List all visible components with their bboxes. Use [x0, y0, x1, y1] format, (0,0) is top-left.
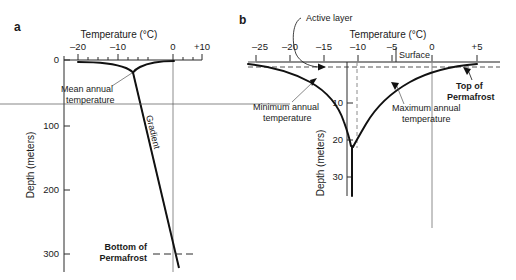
panel-a-xtick-plus10: +10	[194, 41, 210, 52]
panel-b-ytick-30: 30	[332, 171, 343, 182]
panel-b-active-layer-arrowhead	[318, 64, 326, 71]
panel-b-active-layer-label: Active layer	[306, 13, 353, 23]
panel-a: a Temperature (°C) –20 –10 0 +10	[14, 20, 210, 272]
panel-a-xtick-zero: 0	[170, 41, 175, 52]
panel-b-xtick-zero: 0	[429, 41, 434, 52]
panel-a-bottom-permafrost-label-line2: Permafrost	[99, 253, 147, 263]
panel-b-max-annual-label-line2: temperature	[402, 114, 451, 124]
panel-b-min-annual-label-line1: Minimum annual	[253, 102, 319, 112]
panel-b-label: b	[239, 13, 246, 27]
panel-b-x-axis-title: Temperature (°C)	[350, 29, 427, 40]
panel-a-ytick-100: 100	[43, 120, 59, 131]
panel-a-x-ticks	[78, 54, 202, 60]
panel-a-gradient-line	[133, 73, 179, 269]
panel-b-top-permafrost-label-line1: Top of	[456, 81, 484, 91]
panel-a-y-axis-title: Depth (meters)	[25, 132, 36, 199]
panel-a-xtick-minus20: –20	[70, 41, 86, 52]
panel-a-xtick-minus10: –10	[110, 41, 126, 52]
panel-b-xtick-minus15: –15	[316, 41, 332, 52]
panel-a-maximum-annual-curve	[133, 61, 174, 73]
panel-b-xtick-minus10: –10	[350, 41, 366, 52]
panel-a-ytick-300: 300	[43, 248, 59, 259]
panel-a-minimum-annual-curve	[78, 62, 133, 73]
panel-b-max-annual-label-line1: Maximum annual	[392, 103, 461, 113]
panel-a-mean-annual-label-line2: temperature	[66, 95, 115, 105]
panel-b-xtick-minus25: –25	[252, 41, 268, 52]
permafrost-temperature-figure: a Temperature (°C) –20 –10 0 +10	[0, 0, 516, 280]
panel-a-mean-annual-leader	[112, 73, 132, 86]
panel-a-ytick-200: 200	[43, 184, 59, 195]
panel-b-min-annual-label-line2: temperature	[263, 113, 312, 123]
panel-a-ytick-0: 0	[54, 54, 59, 65]
panel-b-y-axis-title: Depth (meters)	[315, 130, 326, 197]
panel-b-xtick-minus20: –20	[282, 41, 298, 52]
panel-b-min-annual-leader	[292, 82, 313, 102]
panel-a-bottom-permafrost-label-line1: Bottom of	[105, 242, 148, 252]
panel-b-ytick-20: 20	[332, 134, 343, 145]
panel-a-mean-annual-label-line1: Mean annual	[61, 84, 113, 94]
panel-b-x-ticks	[256, 55, 477, 62]
panel-a-x-axis-title: Temperature (°C)	[81, 29, 158, 40]
panel-b-top-permafrost-label-line2: Permafrost	[447, 92, 495, 102]
panel-a-label: a	[14, 20, 21, 34]
panel-b-xtick-plus5: +5	[472, 41, 483, 52]
panel-b-surface-label: Surface	[399, 50, 430, 60]
